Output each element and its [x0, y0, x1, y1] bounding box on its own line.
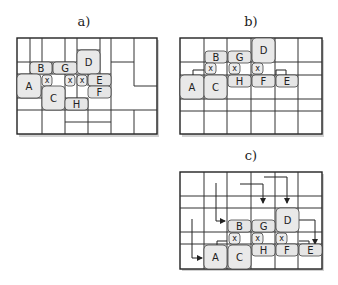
cell-b: B — [213, 52, 220, 63]
cell-x: x — [255, 64, 260, 73]
figure: a) — [0, 0, 338, 285]
cell-e: E — [284, 76, 290, 87]
cell-e: E — [307, 245, 313, 256]
cell-b: B — [38, 63, 45, 74]
cell-h: H — [73, 99, 81, 110]
cell-g: G — [236, 52, 244, 63]
cell-x: x — [208, 64, 213, 73]
panel-c: c) B G D — [180, 148, 324, 271]
panel-b: b) B G D x x x A — [180, 14, 324, 137]
cell-d: D — [260, 45, 268, 56]
panel-a-label: a) — [78, 14, 91, 29]
cell-d: D — [85, 57, 93, 68]
cell-a: A — [212, 252, 219, 263]
cell-f: F — [284, 245, 290, 256]
cell-e: E — [96, 75, 102, 86]
cell-a: A — [189, 82, 196, 93]
cell-x: x — [45, 76, 50, 85]
cell-d: D — [284, 215, 292, 226]
cell-b: B — [236, 221, 243, 232]
cell-a: A — [26, 81, 33, 92]
cell-f: F — [261, 76, 267, 87]
panel-b-label: b) — [244, 14, 257, 29]
panel-c-label: c) — [245, 148, 257, 163]
cell-h: H — [260, 245, 268, 256]
cell-x: x — [68, 76, 73, 85]
cell-x: x — [255, 234, 260, 243]
cell-f: F — [97, 87, 103, 98]
panel-a: a) — [17, 14, 159, 137]
cell-x: x — [232, 64, 237, 73]
cell-c: C — [236, 252, 243, 263]
cell-g: G — [260, 221, 268, 232]
cell-x: x — [80, 76, 85, 85]
cell-c: C — [212, 82, 219, 93]
cell-c: C — [50, 93, 57, 104]
cell-g: G — [61, 63, 69, 74]
cell-h: H — [236, 76, 244, 87]
cell-x: x — [279, 234, 284, 243]
cell-x: x — [232, 234, 237, 243]
